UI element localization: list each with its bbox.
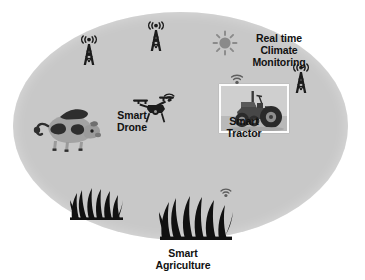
climate-monitoring-label: Real time Climate Monitoring <box>236 33 322 68</box>
grass-icon <box>157 185 237 244</box>
cow-icon <box>30 92 102 158</box>
radio-tower-icon <box>143 20 169 52</box>
smart-drone-label: Smart Drone <box>103 110 161 134</box>
smart-tractor-label: Smart Tractor <box>209 116 279 140</box>
smart-agriculture-diagram: Real time Climate Monitoring <box>0 0 365 280</box>
grass-icon <box>68 180 126 224</box>
radio-tower-icon <box>76 34 102 66</box>
smart-agriculture-label: Smart Agriculture <box>135 248 231 272</box>
sun-icon <box>212 30 238 60</box>
